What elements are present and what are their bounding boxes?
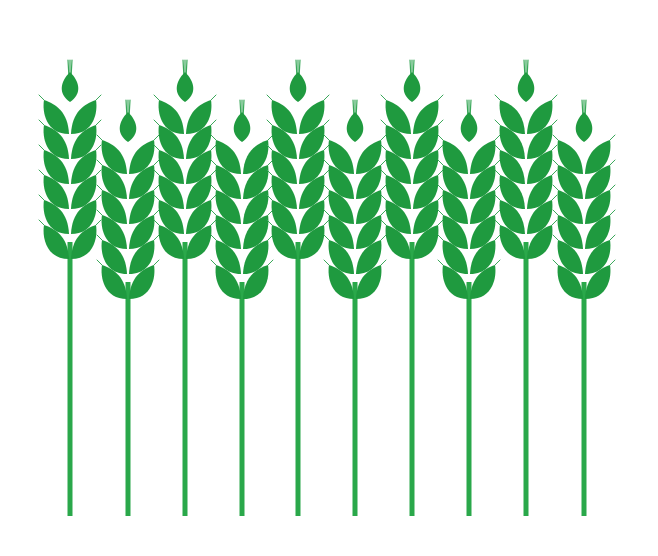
wheat-stem bbox=[240, 282, 245, 516]
grain-top bbox=[404, 72, 421, 102]
grain-top bbox=[518, 72, 535, 102]
wheat-stalk bbox=[381, 60, 443, 516]
wheat-stalk bbox=[553, 100, 615, 516]
wheat-stalk bbox=[97, 100, 159, 516]
wheat-illustration bbox=[0, 0, 658, 556]
wheat-stalk bbox=[324, 100, 386, 516]
grain-top bbox=[290, 72, 307, 102]
wheat-stem bbox=[467, 282, 472, 516]
wheat-stem bbox=[296, 242, 301, 516]
grain-top bbox=[576, 112, 593, 142]
wheat-stalk bbox=[495, 60, 557, 516]
grain-top bbox=[461, 112, 478, 142]
wheat-stem bbox=[126, 282, 131, 516]
wheat-stalk bbox=[438, 100, 500, 516]
grain-top bbox=[234, 112, 251, 142]
grain-top bbox=[62, 72, 79, 102]
wheat-stem bbox=[68, 242, 73, 516]
wheat-stem bbox=[524, 242, 529, 516]
wheat-stalk bbox=[154, 60, 216, 516]
wheat-stalk bbox=[39, 60, 101, 516]
wheat-stalk bbox=[267, 60, 329, 516]
wheat-stalk bbox=[211, 100, 273, 516]
grain-top bbox=[177, 72, 194, 102]
wheat-stem bbox=[183, 242, 188, 516]
wheat-stem bbox=[353, 282, 358, 516]
grain-top bbox=[347, 112, 364, 142]
wheat-stem bbox=[582, 282, 587, 516]
grain-top bbox=[120, 112, 137, 142]
wheat-stem bbox=[410, 242, 415, 516]
